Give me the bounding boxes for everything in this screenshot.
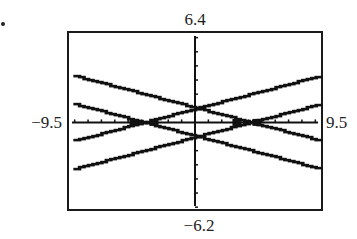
bullet-dot [1, 22, 5, 26]
intersection-blob [252, 119, 261, 126]
xmax-label: 9.5 [326, 113, 347, 132]
intersection-blob [130, 119, 139, 126]
ymax-label: 6.4 [184, 10, 206, 29]
intersection-blob [232, 119, 241, 126]
xmin-label: −9.5 [31, 113, 62, 132]
intersection-blob [150, 119, 159, 126]
axes [72, 36, 318, 207]
ymin-label: −6.2 [184, 216, 215, 235]
calculator-graph: 6.4 −6.2 −9.5 9.5 [0, 0, 357, 239]
